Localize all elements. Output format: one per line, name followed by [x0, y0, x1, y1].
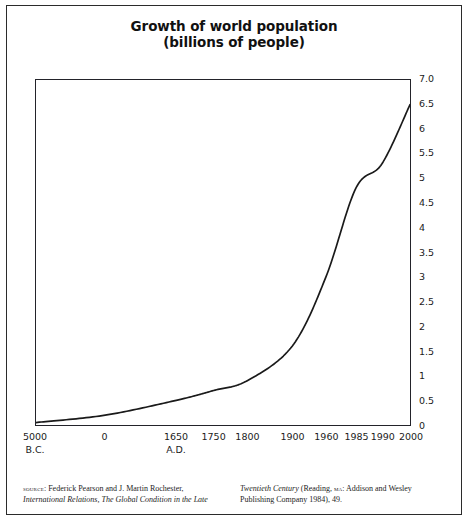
x-tick-label: 2000 [399, 430, 423, 443]
y-tick-label: 2 [419, 322, 425, 332]
y-tick-label: 0.5 [419, 396, 434, 406]
y-tick-label: 1 [419, 371, 425, 381]
x-tick-label: 1985 [344, 430, 368, 443]
source-note: source: Federick Pearson and J. Martin R… [23, 484, 447, 505]
x-tick-label: 5000B.C. [23, 430, 47, 456]
x-tick-year: 1650 [164, 431, 188, 442]
x-tick-year: 1800 [235, 431, 259, 442]
source-right-title: Twentieth Century [240, 484, 299, 493]
source-right-state: ma [334, 484, 342, 493]
x-tick-label: 1650A.D. [164, 430, 188, 456]
x-tick-year: 1960 [314, 431, 338, 442]
x-tick-year: 1900 [280, 431, 304, 442]
x-tick-era: A.D. [164, 443, 188, 456]
figure-frame: Growth of world population (billions of … [6, 5, 462, 515]
source-column-right: Twentieth Century (Reading, ma: Addison … [240, 484, 447, 505]
x-tick-label: 1960 [314, 430, 338, 443]
source-label: source [23, 484, 44, 493]
y-tick-label: 1.5 [419, 347, 434, 357]
chart-title-line-2: (billions of people) [7, 34, 461, 50]
y-tick-label: 7.0 [419, 74, 434, 84]
y-tick-label: 5.5 [419, 148, 434, 158]
plot-area [35, 79, 411, 426]
source-left-line-1: : Federick Pearson and J. Martin Rochest… [44, 484, 184, 493]
x-tick-year: 1990 [371, 431, 395, 442]
x-tick-year: 2000 [399, 431, 423, 442]
x-tick-label: 0 [102, 430, 108, 443]
population-curve [36, 80, 410, 425]
x-tick-era: B.C. [23, 443, 47, 456]
x-tick-label: 1900 [280, 430, 304, 443]
chart-title: Growth of world population (billions of … [7, 18, 461, 50]
x-tick-label: 1750 [202, 430, 226, 443]
y-tick-label: 3 [419, 272, 425, 282]
y-tick-label: 4 [419, 223, 425, 233]
x-tick-year: 1750 [202, 431, 226, 442]
source-column-left: source: Federick Pearson and J. Martin R… [23, 484, 230, 505]
x-tick-year: 1985 [344, 431, 368, 442]
y-tick-label: 5 [419, 173, 425, 183]
y-tick-label: 4.5 [419, 198, 434, 208]
x-tick-label: 1800 [235, 430, 259, 443]
y-tick-label: 3.5 [419, 248, 434, 258]
y-tick-label: 2.5 [419, 297, 434, 307]
source-left-line-2: International Relations, The Global Cond… [23, 495, 208, 504]
x-tick-year: 5000 [23, 431, 47, 442]
y-tick-label: 6 [419, 124, 425, 134]
y-tick-label: 6.5 [419, 99, 434, 109]
source-right-rest-a: (Reading, [299, 484, 334, 493]
x-tick-label: 1990 [371, 430, 395, 443]
chart-title-line-1: Growth of world population [7, 18, 461, 34]
source-right-rest-b: : Addison and Wesley [342, 484, 412, 493]
x-tick-year: 0 [102, 431, 108, 442]
source-right-line-2: Publishing Company 1984), 49. [240, 495, 342, 504]
y-axis-labels: 7.06.565.554.543.532.521.510.50 [413, 79, 453, 426]
x-axis-labels: 5000B.C.01650A.D.17501800190019601985199… [7, 430, 461, 470]
